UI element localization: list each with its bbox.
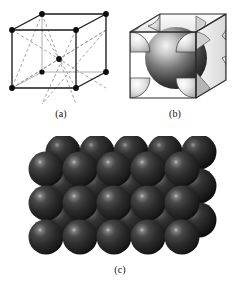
aggregate-front-row-3	[29, 220, 200, 255]
sphere	[29, 220, 64, 255]
sphere	[165, 152, 200, 187]
sphere	[63, 220, 98, 255]
sphere	[29, 152, 64, 187]
sphere	[165, 186, 200, 221]
caption-b: (b)	[144, 108, 206, 120]
sphere	[63, 152, 98, 187]
bcc-hardsphere-svg	[124, 6, 232, 108]
bcc-crystal-structure-figure: (a)	[0, 0, 239, 286]
dashed-diag-7	[12, 14, 42, 88]
sphere	[97, 152, 132, 187]
sphere	[63, 186, 98, 221]
bcc-wireframe-svg	[8, 8, 114, 108]
cube-hidden-edges	[12, 14, 106, 88]
atom-corner-back-top-right	[103, 11, 109, 17]
atom-corner-front-bottom-right	[73, 85, 79, 91]
aggregate-front-row-2	[29, 186, 200, 221]
atom-corner-front-bottom-left	[9, 85, 15, 91]
dashed-diag-6	[42, 30, 106, 104]
aggregate-front-row-1	[29, 152, 200, 187]
caption-a: (a)	[30, 108, 92, 120]
atom-corner-front-top-right	[73, 27, 79, 33]
panel-a-reduced-sphere-unit-cell	[8, 8, 114, 108]
aggregate-front-layer	[29, 152, 200, 255]
panel-c-atom-aggregate	[18, 136, 222, 260]
sphere	[131, 152, 166, 187]
atom-aggregate-svg	[18, 136, 222, 260]
sphere	[97, 220, 132, 255]
atom-corner-back-bottom-left	[39, 69, 44, 74]
sphere	[131, 186, 166, 221]
edge-connector-top-left	[12, 14, 42, 30]
sphere	[29, 186, 64, 221]
panel-b-hard-sphere-unit-cell	[124, 6, 232, 108]
atom-body-center	[56, 56, 62, 62]
edge-connector-top-right	[76, 14, 106, 30]
cube-visible-edges	[12, 14, 106, 88]
sphere	[165, 220, 200, 255]
sphere	[97, 186, 132, 221]
atom-corner-back-bottom-right	[103, 69, 109, 75]
atom-corner-back-top-left	[39, 11, 45, 17]
atom-corner-front-top-left	[9, 27, 15, 33]
hidden-edge-left	[12, 72, 42, 88]
dashed-diag-5	[42, 30, 76, 104]
sphere	[131, 220, 166, 255]
caption-c: (c)	[90, 264, 150, 276]
